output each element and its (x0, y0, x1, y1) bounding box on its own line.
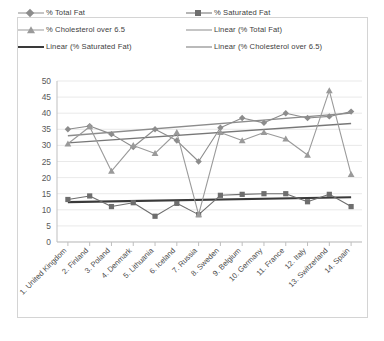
data-point-marker-square (65, 197, 70, 202)
data-point-marker-diamond (65, 126, 71, 132)
data-point-marker-square (283, 191, 288, 196)
data-point-marker-diamond (283, 110, 289, 116)
data-point-marker-square (109, 204, 114, 209)
data-point-marker-triangle (326, 87, 333, 93)
data-point-marker-square (349, 204, 354, 209)
data-point-marker-triangle (348, 171, 355, 177)
y-axis-tick-label: 0 (46, 237, 51, 247)
data-point-marker-square (240, 192, 245, 197)
y-axis-tick-label: 10 (42, 205, 52, 215)
data-point-marker-square (87, 193, 92, 198)
y-axis-tick-label: 50 (42, 76, 52, 86)
data-point-marker-square (305, 199, 310, 204)
y-axis-tick-label: 40 (42, 108, 52, 118)
data-point-marker-square (174, 201, 179, 206)
data-point-marker-square (131, 200, 136, 205)
y-axis-tick-label: 15 (42, 189, 52, 199)
y-axis-tick-label: 20 (42, 173, 52, 183)
series-line (68, 91, 351, 215)
plot-svg: 051015202530354045501. United Kingdom2. … (0, 0, 384, 341)
data-point-marker-diamond (239, 115, 245, 121)
data-point-marker-square (152, 214, 157, 219)
y-axis-tick-label: 35 (42, 124, 52, 134)
data-point-marker-square (218, 193, 223, 198)
data-point-marker-triangle (304, 152, 311, 158)
data-point-marker-diamond (304, 115, 310, 121)
y-axis-tick-label: 5 (46, 221, 51, 231)
y-axis-tick-label: 25 (42, 157, 52, 167)
y-axis-tick-label: 45 (42, 92, 52, 102)
data-point-marker-square (261, 191, 266, 196)
data-point-marker-triangle (173, 129, 180, 135)
y-axis-tick-label: 30 (42, 140, 52, 150)
data-point-marker-square (327, 192, 332, 197)
plot-area: 051015202530354045501. United Kingdom2. … (0, 0, 384, 341)
